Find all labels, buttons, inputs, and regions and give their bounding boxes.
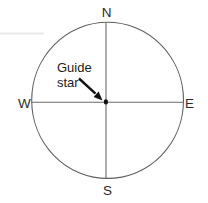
guide-star-label-line2: star: [57, 75, 79, 90]
guide-star-dot: [104, 99, 108, 104]
arrow-shaft: [79, 79, 96, 94]
south-label: S: [103, 183, 112, 198]
diagram-canvas: N S E W Guide star: [0, 0, 208, 203]
west-label: W: [18, 96, 31, 111]
east-label: E: [185, 96, 194, 111]
north-label: N: [102, 5, 112, 20]
guide-star-arrow-icon: [79, 79, 103, 101]
compass-diagram: N S E W Guide star: [0, 0, 208, 203]
guide-star-label-line1: Guide: [57, 60, 92, 75]
compass-circle: [32, 22, 184, 178]
